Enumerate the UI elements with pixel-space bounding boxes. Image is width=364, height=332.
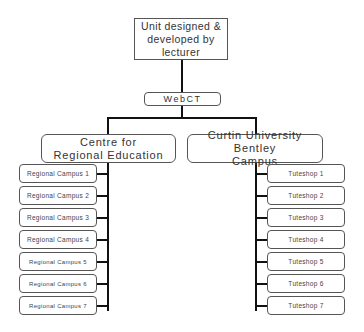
regional-campus-5-node: Regional Campus 5 bbox=[19, 252, 97, 271]
left-tick-6 bbox=[96, 283, 108, 285]
centre-label-line2: Regional Education bbox=[54, 149, 164, 162]
left-tick-2 bbox=[96, 195, 108, 197]
branch-horizontal-bar bbox=[107, 117, 257, 119]
root-label-line2: developed by lecturer bbox=[135, 33, 227, 59]
regional-campus-4-node: Regional Campus 4 bbox=[19, 230, 97, 249]
leaf-label: Tuteshop 7 bbox=[288, 302, 323, 309]
tuteshop-5-node: Tuteshop 5 bbox=[267, 252, 345, 271]
regional-campus-6-node: Regional Campus 6 bbox=[19, 274, 97, 293]
left-tick-5 bbox=[96, 261, 108, 263]
regional-campus-2-node: Regional Campus 2 bbox=[19, 186, 97, 205]
curtin-label-line1: Curtin University Bentley bbox=[188, 129, 322, 155]
root-to-webct-connector bbox=[181, 59, 183, 92]
centre-label-line1: Centre for bbox=[80, 136, 137, 149]
left-tick-7 bbox=[96, 305, 108, 307]
leaf-label: Regional Campus 2 bbox=[27, 192, 89, 199]
tuteshop-7-node: Tuteshop 7 bbox=[267, 296, 345, 315]
leaf-label: Regional Campus 5 bbox=[29, 259, 87, 265]
tuteshop-1-node: Tuteshop 1 bbox=[267, 164, 345, 183]
regional-campus-3-node: Regional Campus 3 bbox=[19, 208, 97, 227]
webct-label: WebCT bbox=[164, 94, 202, 104]
tuteshop-2-node: Tuteshop 2 bbox=[267, 186, 345, 205]
webct-node: WebCT bbox=[144, 92, 221, 106]
leaf-label: Tuteshop 4 bbox=[288, 236, 323, 243]
leaf-label: Regional Campus 1 bbox=[27, 170, 89, 177]
leaf-label: Tuteshop 2 bbox=[288, 192, 323, 199]
leaf-label: Tuteshop 3 bbox=[288, 214, 323, 221]
left-branch-drop bbox=[107, 117, 109, 135]
leaf-label: Tuteshop 5 bbox=[288, 258, 323, 265]
tuteshop-6-node: Tuteshop 6 bbox=[267, 274, 345, 293]
left-tick-3 bbox=[96, 217, 108, 219]
leaf-label: Regional Campus 7 bbox=[29, 303, 87, 309]
leaf-label: Tuteshop 1 bbox=[288, 170, 323, 177]
leaf-label: Tuteshop 6 bbox=[288, 280, 323, 287]
leaf-label: Regional Campus 6 bbox=[29, 281, 87, 287]
leaf-label: Regional Campus 4 bbox=[27, 236, 89, 243]
curtin-bentley-campus-node: Curtin University Bentley Campus bbox=[187, 134, 323, 163]
left-spine bbox=[107, 162, 109, 311]
regional-campus-1-node: Regional Campus 1 bbox=[19, 164, 97, 183]
tuteshop-4-node: Tuteshop 4 bbox=[267, 230, 345, 249]
root-node-unit-designed: Unit designed & developed by lecturer bbox=[134, 18, 228, 60]
regional-campus-7-node: Regional Campus 7 bbox=[19, 296, 97, 315]
root-label-line1: Unit designed & bbox=[141, 20, 221, 33]
left-tick-1 bbox=[96, 173, 108, 175]
centre-regional-education-node: Centre for Regional Education bbox=[41, 134, 176, 163]
leaf-label: Regional Campus 3 bbox=[27, 214, 89, 221]
left-tick-4 bbox=[96, 239, 108, 241]
tuteshop-3-node: Tuteshop 3 bbox=[267, 208, 345, 227]
right-spine bbox=[255, 162, 257, 311]
